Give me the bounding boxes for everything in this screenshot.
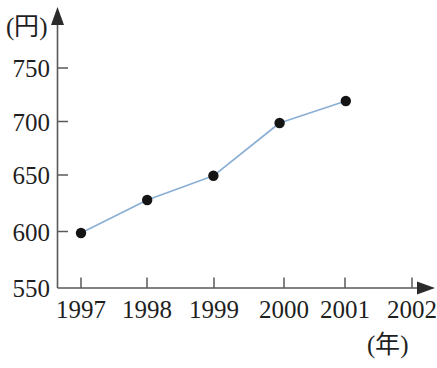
y-tick-label-700: 700 bbox=[0, 110, 50, 135]
y-axis-unit-label: (円) bbox=[6, 14, 48, 39]
data-point-1998 bbox=[142, 195, 152, 205]
x-tick-label-1999: 1999 bbox=[174, 297, 254, 322]
x-tick-marks bbox=[81, 278, 412, 289]
arrow-right-icon bbox=[417, 282, 435, 295]
data-point-1997 bbox=[76, 228, 86, 238]
data-point-1999 bbox=[208, 171, 218, 181]
y-tick-label-650: 650 bbox=[0, 163, 50, 188]
data-point-2000 bbox=[274, 118, 284, 128]
line-chart-figure: (円) (年) 750 700 650 600 550 1997 1998 19… bbox=[0, 0, 437, 368]
y-tick-marks bbox=[58, 68, 69, 232]
x-tick-label-2002: 2002 bbox=[372, 297, 437, 322]
data-point-2001 bbox=[341, 96, 351, 106]
x-axis-unit-label: (年) bbox=[367, 332, 409, 357]
arrow-up-icon bbox=[51, 7, 64, 25]
data-point-markers bbox=[76, 96, 351, 238]
y-tick-label-600: 600 bbox=[0, 220, 50, 245]
y-tick-label-750: 750 bbox=[0, 56, 50, 81]
data-series-line bbox=[81, 101, 346, 233]
